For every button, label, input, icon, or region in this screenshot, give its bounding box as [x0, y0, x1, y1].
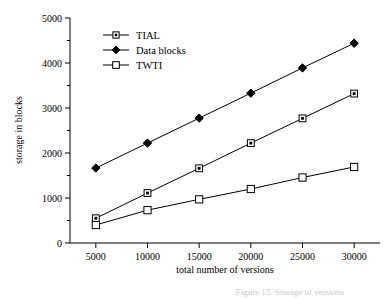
figure-caption: Figure 15. Storage of versions	[236, 287, 345, 297]
marker-square-open	[247, 185, 254, 192]
marker-square-dot-inner	[198, 167, 201, 170]
marker-square-open	[196, 196, 203, 203]
marker-square-dot-inner	[115, 34, 118, 37]
y-tick-label: 4000	[42, 58, 62, 69]
x-tick-label: 10000	[135, 251, 160, 262]
marker-square-dot-inner	[146, 192, 149, 195]
x-tick-label: 30000	[342, 251, 367, 262]
x-tick-label: 25000	[290, 251, 315, 262]
marker-square-dot-inner	[353, 92, 356, 95]
marker-square-open	[351, 163, 358, 170]
x-tick-label: 20000	[238, 251, 263, 262]
line-chart: 010002000300040005000 500010000150002000…	[0, 0, 390, 298]
figure-container: 010002000300040005000 500010000150002000…	[0, 0, 390, 298]
y-axis-title: storage in blocks	[13, 96, 24, 164]
y-tick-label: 1000	[42, 193, 62, 204]
marker-square-open	[299, 174, 306, 181]
y-tick-label: 5000	[42, 13, 62, 24]
marker-square-open	[92, 221, 99, 228]
y-tick-label: 2000	[42, 148, 62, 159]
y-tick-label: 0	[57, 238, 62, 249]
marker-square-dot-inner	[301, 117, 304, 120]
x-tick-label: 15000	[187, 251, 212, 262]
legend-label: TWTI	[136, 60, 163, 71]
legend-label: Data blocks	[136, 45, 186, 56]
marker-square-dot-inner	[249, 142, 252, 145]
x-axis-title: total number of versions	[176, 264, 274, 275]
legend-label: TIAL	[136, 30, 160, 41]
marker-square-dot-inner	[94, 217, 97, 220]
marker-square-open	[144, 207, 151, 214]
y-tick-label: 3000	[42, 103, 62, 114]
x-tick-label: 5000	[86, 251, 106, 262]
marker-square-open	[113, 62, 120, 69]
